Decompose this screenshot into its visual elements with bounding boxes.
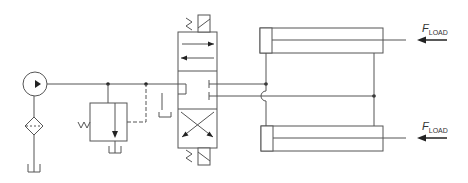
cylinder-top-icon (260, 28, 406, 53)
load-arrow-top-icon (417, 37, 447, 44)
pump-icon (23, 72, 47, 96)
load-label-bottom: FLOAD (422, 120, 448, 134)
directional-valve-icon (159, 15, 217, 165)
cylinder-bottom-icon (261, 126, 406, 151)
relief-valve-icon (78, 84, 146, 153)
hydraulic-circuit-diagram: FLOAD FLOAD (0, 0, 468, 183)
cap-manifold-line (261, 53, 266, 126)
load-label-top: FLOAD (422, 22, 448, 36)
load-arrow-bottom-icon (417, 135, 447, 142)
filter-icon (25, 117, 43, 135)
